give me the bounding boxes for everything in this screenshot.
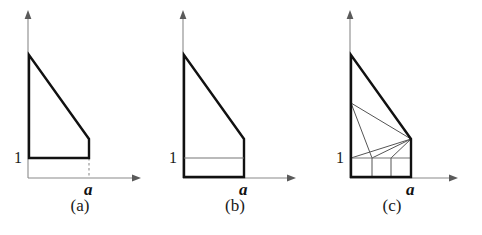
panel-c-diagram: 1 a xyxy=(312,0,472,200)
y-axis-arrow-icon xyxy=(347,10,354,19)
panel-b-caption: (b) xyxy=(155,196,315,216)
y-axis-arrow-icon xyxy=(180,10,187,19)
y-axis-arrow-icon xyxy=(25,10,32,19)
y-tick-label-1: 1 xyxy=(336,149,344,166)
trapezoid-region xyxy=(29,55,89,158)
y-tick-label-1: 1 xyxy=(14,149,22,166)
figure-root: 1 a (a) 1 a (b) xyxy=(0,0,482,235)
trapezoid-region xyxy=(351,55,411,177)
chord-left-down xyxy=(351,103,372,158)
interior-subdivision-lines xyxy=(351,103,411,177)
panel-a: 1 a (a) xyxy=(0,0,160,235)
chord-upper xyxy=(351,103,411,139)
panel-a-diagram: 1 a xyxy=(0,0,160,200)
x-axis-arrow-icon xyxy=(132,175,141,182)
panel-a-caption: (a) xyxy=(0,196,160,216)
trapezoid-region xyxy=(184,55,244,177)
x-axis-arrow-icon xyxy=(287,175,296,182)
panel-b-diagram: 1 a xyxy=(155,0,315,200)
panel-b: 1 a (b) xyxy=(155,0,315,235)
chord-base-right xyxy=(351,139,411,158)
chord-mid-right xyxy=(372,139,411,158)
y-tick-label-1: 1 xyxy=(169,149,177,166)
panel-c: 1 a (c) xyxy=(312,0,472,235)
panel-c-caption: (c) xyxy=(312,196,472,216)
x-axis-arrow-icon xyxy=(449,175,458,182)
